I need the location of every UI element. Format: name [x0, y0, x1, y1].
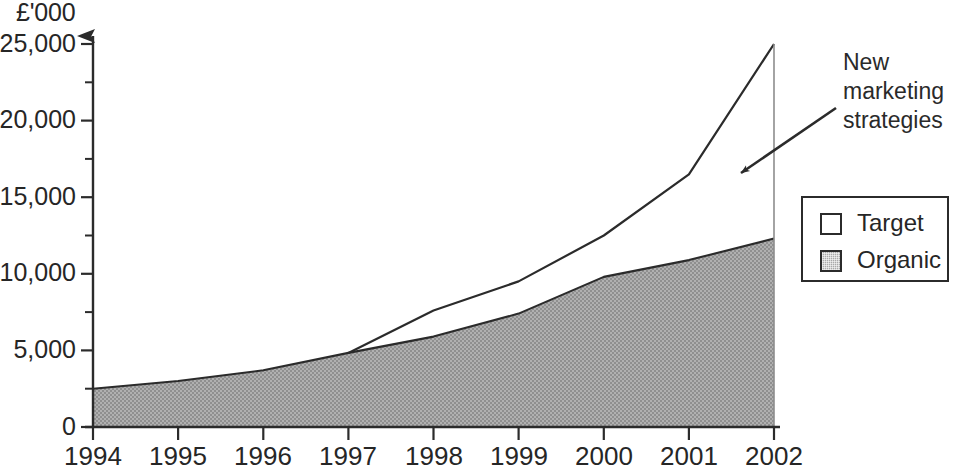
annotation-line-3: strategies — [843, 106, 943, 135]
y-tick-label-15000: 15,000 — [0, 182, 76, 211]
white-square-icon — [820, 213, 842, 235]
y-tick-label-5000: 5,000 — [0, 335, 76, 364]
legend-label-target: Target — [857, 209, 924, 237]
chart-legend: Target Organic — [801, 196, 949, 282]
x-ticks — [93, 427, 774, 440]
y-tick-label-10000: 10,000 — [0, 258, 76, 287]
growth-chart: £'000 25,000 20,000 15,000 10,000 5,000 … — [0, 0, 956, 469]
y-tick-label-0: 0 — [0, 412, 76, 441]
annotation-line-1: New — [843, 48, 889, 77]
y-tick-label-20000: 20,000 — [0, 105, 76, 134]
annotation-arrow-icon — [741, 108, 836, 173]
legend-label-organic: Organic — [857, 246, 941, 274]
x-tick-label-2002: 2002 — [714, 441, 834, 469]
organic-area — [93, 239, 774, 427]
y-axis-unit-label: £'000 — [16, 0, 75, 27]
annotation-line-2: marketing — [843, 77, 944, 106]
gray-hatched-square-icon — [820, 250, 842, 272]
y-tick-label-25000: 25,000 — [0, 29, 76, 58]
